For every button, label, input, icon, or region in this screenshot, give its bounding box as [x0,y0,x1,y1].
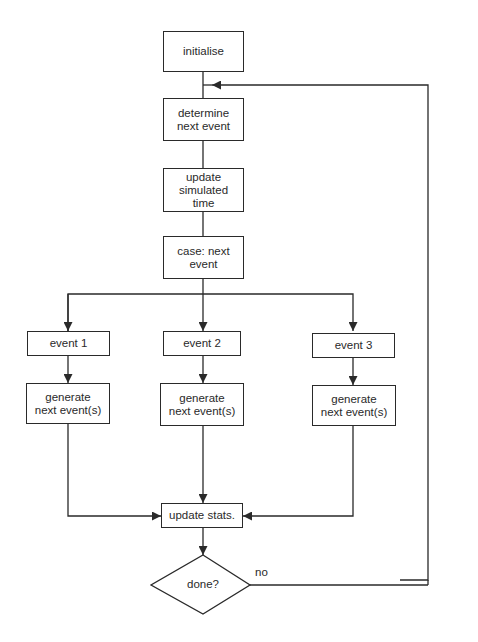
node-event-1: event 1 [27,331,110,356]
flowchart-diagram: initialise determine next event update s… [0,0,478,642]
node-generate-next-events-3: generate next event(s) [312,385,396,426]
node-done-decision: done? [171,578,235,590]
node-determine-next-event: determine next event [163,98,244,141]
node-initialise: initialise [163,31,244,72]
node-generate-next-events-1: generate next event(s) [26,383,110,424]
node-generate-next-events-2: generate next event(s) [160,383,244,426]
node-update-simulated-time: update simulated time [163,168,244,212]
node-case-next-event: case: next event [163,236,244,279]
edge-label-no: no [255,566,268,578]
node-event-2: event 2 [163,331,241,356]
node-event-3: event 3 [312,333,395,358]
node-update-stats: update stats. [161,503,243,528]
connector-lines [0,0,478,642]
